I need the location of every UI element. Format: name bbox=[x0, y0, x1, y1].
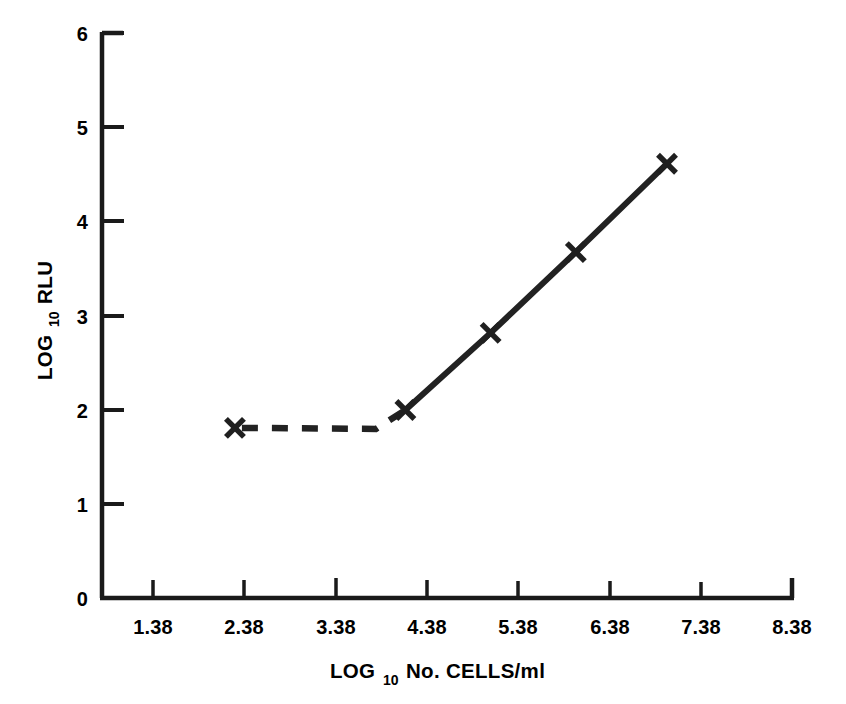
x-axis-title-rest: No. CELLS/ml bbox=[406, 659, 545, 682]
y-axis-title-main: LOG bbox=[33, 335, 56, 380]
series-detection-limit-plateau bbox=[242, 410, 406, 429]
x-tick-label-4-38: 4.38 bbox=[407, 616, 447, 638]
y-tick-label-3: 3 bbox=[77, 306, 88, 328]
y-axis-ticks bbox=[102, 33, 124, 504]
y-axis-title-sub: 10 bbox=[46, 311, 62, 327]
marker-point-3 bbox=[482, 324, 500, 342]
y-tick-label-0: 0 bbox=[77, 588, 88, 610]
y-tick-label-4: 4 bbox=[77, 211, 89, 233]
x-tick-label-6-38: 6.38 bbox=[590, 616, 630, 638]
y-axis-title: LOG 10 RLU bbox=[33, 261, 62, 380]
x-tick-label-3-38: 3.38 bbox=[316, 616, 356, 638]
y-tick-label-2: 2 bbox=[77, 400, 88, 422]
x-axis-title-main: LOG bbox=[330, 659, 375, 682]
y-tick-label-1: 1 bbox=[77, 494, 88, 516]
x-axis-ticks bbox=[153, 578, 701, 598]
x-tick-label-1-38: 1.38 bbox=[133, 616, 173, 638]
marker-point-4 bbox=[567, 243, 585, 261]
axes-group bbox=[100, 32, 794, 598]
y-tick-label-6: 6 bbox=[77, 23, 88, 45]
chart-plot-area: 6 5 4 3 2 1 0 1.38 2.38 3.38 4.38 5.38 6… bbox=[0, 0, 846, 704]
marker-point-2 bbox=[396, 401, 414, 419]
x-tick-label-2-38: 2.38 bbox=[224, 616, 264, 638]
marker-point-5 bbox=[658, 155, 676, 173]
x-axis-title-sub: 10 bbox=[383, 672, 399, 688]
x-tick-label-8-38: 8.38 bbox=[772, 616, 812, 638]
marker-point-1 bbox=[226, 419, 244, 437]
x-tick-labels: 1.38 2.38 3.38 4.38 5.38 6.38 7.38 8.38 bbox=[133, 616, 812, 638]
x-tick-label-5-38: 5.38 bbox=[498, 616, 538, 638]
dashed-plateau-line bbox=[242, 410, 406, 429]
data-point-markers bbox=[226, 155, 676, 437]
y-axis-title-rest: RLU bbox=[33, 261, 56, 304]
chart-figure: 6 5 4 3 2 1 0 1.38 2.38 3.38 4.38 5.38 6… bbox=[0, 0, 846, 704]
series-linear-response bbox=[405, 164, 667, 410]
y-tick-labels: 6 5 4 3 2 1 0 bbox=[77, 23, 89, 610]
x-tick-label-7-38: 7.38 bbox=[681, 616, 721, 638]
x-axis-title: LOG 10 No. CELLS/ml bbox=[330, 659, 545, 688]
y-tick-label-5: 5 bbox=[77, 117, 88, 139]
solid-response-line bbox=[405, 164, 667, 410]
